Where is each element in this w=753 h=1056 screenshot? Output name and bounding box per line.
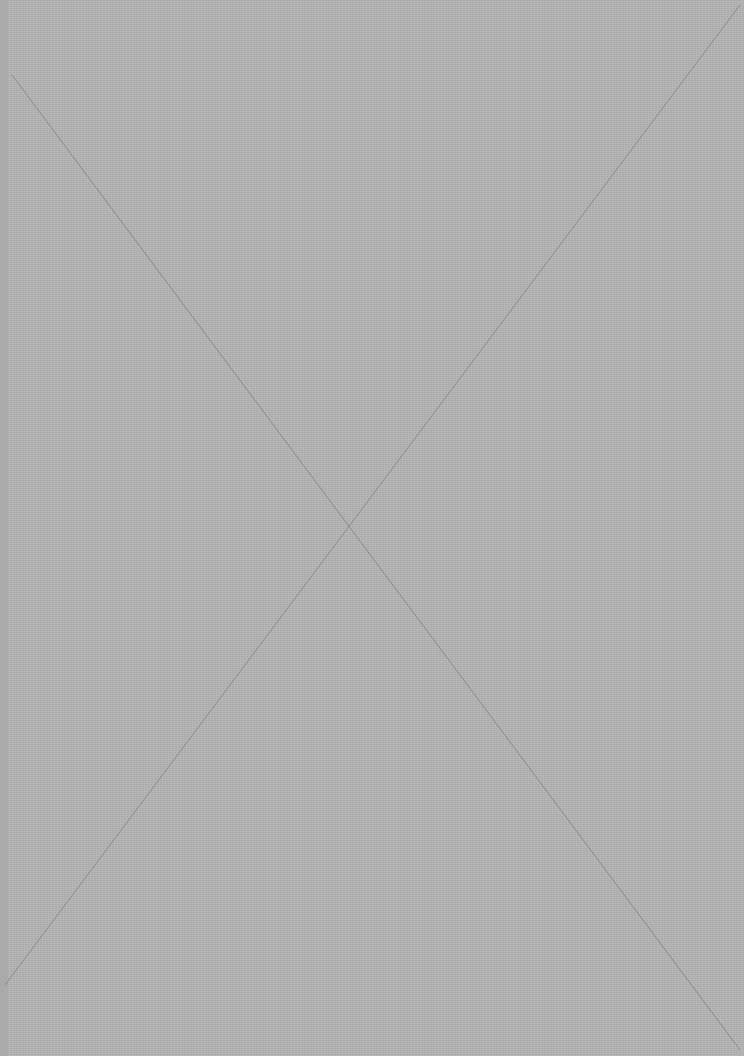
diagonal-line-2 bbox=[5, 5, 740, 985]
placeholder-cross-icon bbox=[0, 0, 753, 1056]
diagonal-line-1 bbox=[12, 75, 740, 1050]
